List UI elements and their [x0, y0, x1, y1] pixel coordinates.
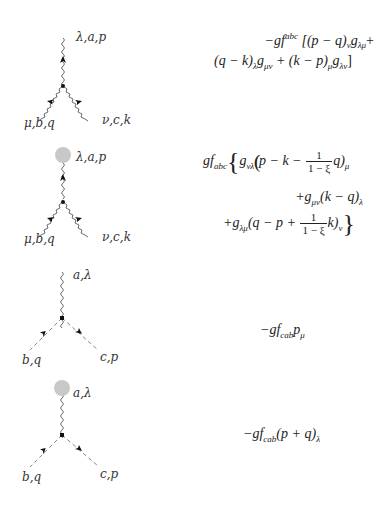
background-field-blob: [55, 147, 71, 163]
label-top: λ,a,p: [76, 150, 106, 164]
rule-term: (k − q): [320, 189, 359, 204]
rule-subscript: abc: [214, 161, 227, 171]
background-field-blob: [54, 380, 70, 396]
feynman-diagram-background-gluon-vertex: [0, 130, 140, 265]
label-bottom-right: ν,c,k: [102, 230, 131, 244]
rule-subscript: λμ: [358, 40, 366, 50]
label-bottom-left: μ,b,q: [24, 116, 55, 130]
rule-term: q): [333, 153, 345, 168]
feynman-rule-ghost-gluon: −gfcabpμ: [260, 322, 305, 340]
rule-term: (p − k −: [254, 153, 305, 168]
rule-subscript: λμ: [239, 223, 247, 233]
rule-term: [(p − q): [301, 33, 346, 48]
rule-term: +g: [295, 189, 311, 204]
rule-subscript: λ: [316, 434, 320, 444]
rule-subscript: μ: [345, 161, 350, 171]
label-bottom-left: b,q: [22, 470, 41, 484]
rule-term: (q − k): [214, 53, 253, 68]
feynman-rule-background-three-gluon: gfabc{gνλ((p − k − 11 − ξq)μ +gμν(k − q)…: [203, 147, 383, 287]
fraction: 11 − ξ: [306, 149, 332, 174]
ghost-line-left: [30, 318, 62, 350]
gluon-line-top: [61, 394, 64, 438]
rule-term: −gf: [260, 322, 280, 337]
rule-subscript: cab: [280, 330, 293, 340]
gluon-line-top: [62, 163, 65, 199]
rule-subscript: λ: [359, 197, 363, 207]
feynman-diagram-background-ghost-vertex: [0, 380, 140, 507]
rule-superscript: abc: [285, 31, 298, 41]
rule-term: g: [351, 33, 358, 48]
label-bottom-right: ν,c,k: [102, 113, 131, 127]
gluon-line-right: [63, 202, 88, 237]
three-gluon-vertex-diagram: λ,a,p μ,b,q ν,c,k: [0, 0, 140, 135]
background-ghost-gluon-vertex-diagram: a,λ b,q c,p: [0, 380, 140, 507]
fraction-numerator: 1: [300, 211, 326, 224]
arrow-down-right-icon: [75, 445, 82, 451]
rule-term: ]: [347, 53, 352, 68]
label-top: a,λ: [73, 386, 92, 400]
rule-term: gf: [203, 153, 214, 168]
ghost-line-left: [30, 435, 62, 467]
ghost-line-right: [62, 435, 98, 466]
rule-term: (q − p +: [248, 215, 300, 230]
feynman-diagram-ghost-vertex: [0, 260, 140, 385]
rule-term: −gf: [243, 426, 263, 441]
rule-term: −g: [265, 33, 281, 48]
rule-term: +: [366, 33, 374, 48]
fraction-denominator: 1 − ξ: [306, 162, 332, 174]
rule-subscript: μν: [312, 197, 321, 207]
label-bottom-left: μ,b,q: [24, 232, 55, 246]
rule-term: k): [328, 215, 339, 230]
rule-term: (p + q): [276, 426, 316, 441]
label-top: a,λ: [73, 268, 92, 282]
vertex-dot: [60, 433, 64, 437]
close-brace: }: [342, 209, 354, 238]
label-top: λ,a,p: [76, 30, 106, 44]
vertex-dot: [61, 84, 65, 88]
label-bottom-left: b,q: [22, 353, 41, 367]
fraction-numerator: 1: [306, 149, 332, 162]
feynman-rule-background-ghost-gluon: −gfcab(p + q)λ: [243, 426, 320, 444]
ghost-gluon-vertex-diagram: a,λ b,q c,p: [0, 260, 140, 385]
feynman-rule-three-gluon: −gfabc [(p − q)νgλμ+ (q − k)λgμν + (k − …: [214, 31, 382, 81]
background-three-gluon-vertex-diagram: λ,a,p μ,b,q ν,c,k: [0, 130, 140, 265]
gluon-line-top: [62, 38, 65, 86]
arrow-up-icon: [60, 174, 66, 181]
label-bottom-right: c,p: [100, 350, 118, 364]
fraction: 11 − ξ: [300, 211, 326, 236]
gluon-line-right: [63, 86, 88, 121]
vertex-dot: [61, 200, 65, 204]
rule-term: +g: [223, 215, 239, 230]
ghost-line-right: [62, 318, 98, 350]
rule-subscript: μ: [300, 330, 305, 340]
rule-term: g: [257, 53, 264, 68]
vertex-dot: [60, 316, 64, 320]
rule-subscript: cab: [263, 434, 276, 444]
fraction-denominator: 1 − ξ: [300, 224, 326, 236]
open-brace: {: [227, 147, 239, 176]
rule-term: + (k − p): [272, 53, 327, 68]
label-bottom-right: c,p: [100, 467, 118, 481]
